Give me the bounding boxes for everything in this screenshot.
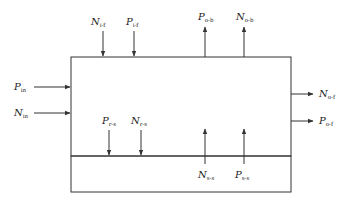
label-n-s-s: Ns-s [197, 169, 214, 181]
label-p-o-f: Po-f [318, 115, 334, 127]
label-p-in: Pin [13, 81, 26, 93]
nutrient-flow-diagram: Ni-f Pi-f Po-b No-b Pin Nin No-f Po-f Pr… [0, 0, 349, 208]
svg-text:Nin: Nin [13, 107, 29, 119]
label-p-o-b: Po-b [197, 11, 214, 23]
label-n-o-b: No-b [235, 11, 254, 23]
label-p-s-s: Ps-s [234, 169, 249, 181]
svg-text:No-b: No-b [235, 11, 254, 23]
svg-text:Pi-f: Pi-f [125, 16, 139, 28]
svg-text:Po-b: Po-b [197, 11, 214, 23]
svg-text:Ps-s: Ps-s [234, 169, 249, 181]
svg-text:No-f: No-f [318, 88, 336, 100]
svg-text:Pin: Pin [13, 81, 26, 93]
lower-compartment-box [71, 156, 291, 192]
svg-text:Pr-s: Pr-s [101, 115, 116, 127]
label-p-i-f: Pi-f [125, 16, 139, 28]
svg-text:Ni-f: Ni-f [90, 16, 106, 28]
svg-text:Po-f: Po-f [318, 115, 334, 127]
svg-text:Nr-s: Nr-s [130, 115, 147, 127]
label-n-r-s: Nr-s [130, 115, 147, 127]
label-n-in: Nin [13, 107, 29, 119]
upper-compartment-box [71, 57, 291, 156]
label-p-r-s: Pr-s [101, 115, 116, 127]
label-n-i-f: Ni-f [90, 16, 106, 28]
label-n-o-f: No-f [318, 88, 336, 100]
svg-text:Ns-s: Ns-s [197, 169, 214, 181]
